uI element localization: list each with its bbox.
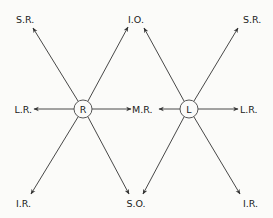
label-bottom-right: I.R. (243, 198, 258, 209)
label-bottom-center: S.O. (126, 198, 145, 209)
arrow-r-inferior-rectus (31, 117, 78, 194)
label-mid-right: L.R. (240, 104, 258, 115)
label-mid-center: M.R. (132, 104, 153, 115)
eye-muscle-diagram: R L S.R. I.O. S.R. L.R. M.R. L.R. I.R. S… (0, 0, 273, 218)
arrow-l-inferior-oblique (144, 28, 184, 101)
node-left-eye: L (180, 100, 198, 118)
arrow-l-inferior-rectus (194, 117, 240, 194)
label-top-center: I.O. (128, 14, 144, 25)
node-left-eye-label: L (186, 104, 192, 115)
label-bottom-left: I.R. (16, 198, 31, 209)
label-top-left: S.R. (16, 14, 34, 25)
arrow-l-superior-oblique (143, 117, 184, 194)
label-top-right: S.R. (243, 14, 261, 25)
arrow-r-inferior-oblique (88, 27, 128, 101)
label-mid-left: L.R. (14, 104, 32, 115)
node-right-eye: R (74, 100, 92, 118)
arrow-r-superior-oblique (88, 117, 129, 194)
arrow-l-superior-rectus (194, 28, 238, 101)
arrow-r-superior-rectus (33, 28, 78, 101)
node-right-eye-label: R (80, 104, 87, 115)
